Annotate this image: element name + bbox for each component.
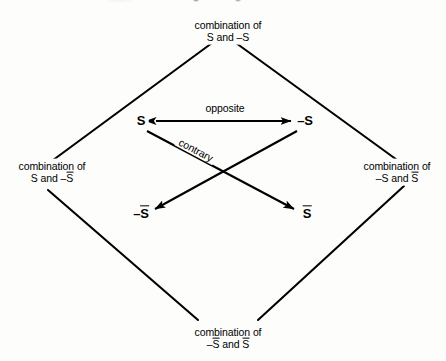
- vertex-s: S: [134, 113, 149, 128]
- corner-label-bottom: combination of –S and S: [193, 325, 264, 352]
- diamond-edge-bottom-left: [48, 190, 198, 320]
- arrow-contrary: [147, 131, 294, 209]
- corner-label-left-text: S and –: [31, 172, 67, 184]
- diamond-edge-right-bottom: [258, 186, 404, 320]
- corner-label-right-text: –S and: [376, 172, 412, 184]
- corner-label-top: combination of S and –S: [193, 18, 264, 45]
- corner-label-bottom-s-bar-b: S: [242, 338, 249, 350]
- relation-label-opposite: opposite: [203, 102, 248, 114]
- corner-label-right-s-bar: S: [411, 172, 418, 184]
- corner-label-top-line2: S and –S: [195, 31, 262, 43]
- vertex-minus-s: –S: [294, 113, 316, 128]
- vertex-minus-s-text: –S: [297, 113, 313, 128]
- corner-label-right-line2: –S and S: [364, 172, 431, 184]
- corner-label-top-text: S and: [207, 31, 237, 43]
- corner-label-top-line1: combination of: [195, 19, 262, 31]
- corner-label-left: combination of S and –S: [17, 159, 88, 186]
- vertex-s-text: S: [137, 113, 146, 128]
- vertex-minus-s-bar-minus: –: [133, 206, 140, 221]
- corner-label-right-line1: combination of: [364, 160, 431, 172]
- diamond-edge-top-right: [236, 43, 404, 165]
- vertex-minus-s-bar-s: S: [140, 206, 149, 221]
- corner-label-bottom-s-bar-a: S: [213, 338, 220, 350]
- corner-label-left-s-bar: S: [66, 172, 73, 184]
- corner-label-bottom-line2: –S and S: [195, 338, 262, 350]
- outer-diamond: [45, 43, 404, 320]
- semiotic-square-diagram: combination of S and –S combination of S…: [0, 0, 446, 361]
- corner-label-left-line2: S and –S: [19, 172, 86, 184]
- vertex-s-bar: S: [300, 206, 315, 221]
- corner-label-left-line1: combination of: [19, 160, 86, 172]
- vertex-s-bar-s: S: [303, 206, 312, 221]
- corner-label-bottom-line1: combination of: [195, 326, 262, 338]
- corner-label-right: combination of –S and S: [362, 159, 433, 186]
- corner-label-top-minus-s: –S: [237, 31, 250, 43]
- corner-label-bottom-and: and: [219, 338, 242, 350]
- inner-relation-arrows: [147, 121, 297, 209]
- vertex-minus-s-bar: –S: [130, 206, 152, 221]
